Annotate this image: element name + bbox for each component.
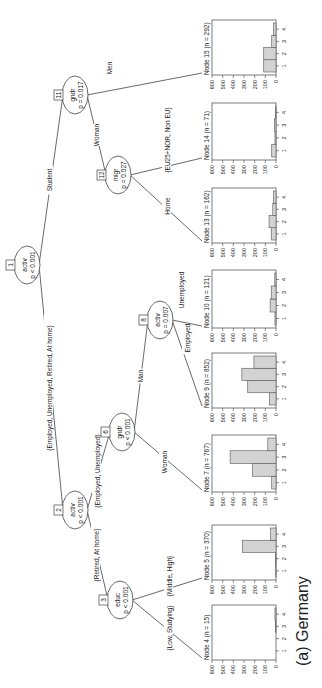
terminal-node-14: Node 14 (n = 71)01002003004005006001234 [203, 103, 287, 174]
x-tick-label: 4 [281, 443, 287, 446]
plot-frame [212, 270, 276, 328]
y-tick-label: 500 [220, 248, 226, 257]
split-variable: gndr [69, 88, 77, 102]
tree-edge: Unemployed [172, 270, 202, 326]
y-tick-label: 0 [273, 333, 279, 336]
x-tick-label: 4 [281, 533, 287, 536]
tree-edge: {Employed, Unemployed} [87, 429, 110, 512]
plot-frame [212, 605, 276, 660]
terminal-node-10: Node 10 (n = 121)01002003004005006001234 [203, 270, 287, 342]
tree-edge: Woman [87, 95, 106, 175]
y-tick-label: 0 [273, 585, 279, 588]
y-tick-label: 0 [273, 665, 279, 668]
histogram-bar [264, 48, 276, 60]
y-tick-label: 600 [209, 585, 215, 594]
tree-edge: Home [130, 175, 202, 241]
node-title: Node 15 (n = 292) [203, 22, 211, 75]
x-tick-label: 4 [281, 613, 287, 616]
tree-edge: {EU25+NOR, Non EU} [130, 106, 202, 175]
histogram-bar [270, 299, 276, 312]
y-tick-label: 300 [241, 413, 247, 422]
y-tick-label: 300 [241, 665, 247, 674]
edge-label: {Low, Studying} [166, 605, 174, 651]
y-tick-label: 300 [241, 333, 247, 342]
tree-edge: Woman [134, 432, 202, 490]
x-tick-label: 3 [281, 208, 287, 211]
x-tick-label: 3 [281, 291, 287, 294]
y-tick-label: 200 [252, 413, 258, 422]
y-tick-label: 200 [252, 497, 258, 506]
y-tick-label: 500 [220, 413, 226, 422]
edge-label: Employed [184, 323, 192, 352]
x-tick-label: 1 [281, 232, 287, 235]
histogram-bar [272, 144, 276, 157]
x-tick-label: 4 [281, 111, 287, 114]
x-tick-label: 3 [281, 373, 287, 376]
y-tick-label: 300 [241, 248, 247, 257]
y-tick-label: 200 [252, 80, 258, 89]
x-tick-label: 1 [281, 569, 287, 572]
inner-node-12: 12migrp = 0.027 [97, 156, 131, 194]
x-tick-label: 1 [281, 149, 287, 152]
tree-edge: Man [134, 320, 148, 432]
split-variable: activ [21, 258, 28, 272]
histogram-bar [253, 464, 276, 477]
y-tick-label: 400 [230, 165, 236, 174]
split-variable: gndr [116, 425, 124, 439]
node-title: Node 9 (n = 852) [203, 359, 211, 408]
terminal-node-13: Node 13 (n = 162)01002003004005006001234 [203, 188, 287, 257]
y-tick-label: 100 [262, 165, 268, 174]
p-value: p < 0.001 [124, 418, 132, 446]
y-tick-label: 600 [209, 497, 215, 506]
y-tick-label: 200 [252, 165, 258, 174]
histogram-bar [275, 608, 276, 620]
edge-label: {EU25+NOR, Non EU} [164, 107, 172, 173]
edge-label: Woman [93, 123, 100, 146]
p-value: p = 0.007 [162, 306, 170, 334]
histogram-bar [270, 393, 276, 405]
y-tick-label: 600 [209, 165, 215, 174]
y-tick-label: 600 [209, 80, 215, 89]
y-tick-label: 100 [262, 80, 268, 89]
x-tick-label: 2 [281, 385, 287, 388]
y-tick-label: 0 [273, 413, 279, 416]
p-value: p < 0.001 [29, 251, 37, 279]
terminal-node-5: Node 5 (n = 370)01002003004005006001234 [203, 525, 287, 594]
y-tick-label: 400 [230, 585, 236, 594]
node-title: Node 7 (n = 767) [203, 443, 211, 492]
x-tick-label: 1 [281, 64, 287, 67]
x-tick-label: 4 [281, 361, 287, 364]
terminal-node-9: Node 9 (n = 852)01002003004005006001234 [203, 353, 287, 422]
histogram-bar [268, 438, 276, 451]
x-tick-label: 3 [281, 456, 287, 459]
y-tick-label: 100 [262, 333, 268, 342]
y-tick-label: 300 [241, 165, 247, 174]
histogram-bar [275, 106, 276, 119]
y-tick-label: 100 [262, 413, 268, 422]
y-tick-label: 200 [252, 248, 258, 257]
edges: {Employed, Unemployed, Retired, At home}… [39, 61, 202, 658]
edge-label: Unemployed [178, 271, 186, 308]
edge-label: Men [106, 61, 113, 74]
histogram-bar [271, 286, 276, 299]
x-tick-label: 1 [281, 481, 287, 484]
decision-tree: {Employed, Unemployed, Retired, At home}… [0, 0, 322, 688]
histogram-bar [272, 35, 276, 47]
inner-node-11: 11gndrp = 0.017 [54, 76, 88, 114]
tree-edge: Employed [172, 320, 202, 406]
y-tick-label: 100 [262, 665, 268, 674]
y-tick-label: 500 [220, 165, 226, 174]
tree-edge: {Retired, At home} [87, 510, 108, 600]
y-tick-label: 500 [220, 585, 226, 594]
edge-label: Man [137, 369, 144, 382]
node-title: Node 10 (n = 121) [203, 275, 211, 328]
y-tick-label: 400 [230, 248, 236, 257]
y-tick-label: 500 [220, 665, 226, 674]
y-tick-label: 400 [230, 665, 236, 674]
node-id: 8 [140, 318, 147, 322]
node-title: Node 14 (n = 71) [203, 111, 211, 160]
histogram-bar [271, 528, 276, 540]
x-tick-label: 2 [281, 468, 287, 471]
y-tick-label: 500 [220, 80, 226, 89]
y-tick-label: 300 [241, 80, 247, 89]
